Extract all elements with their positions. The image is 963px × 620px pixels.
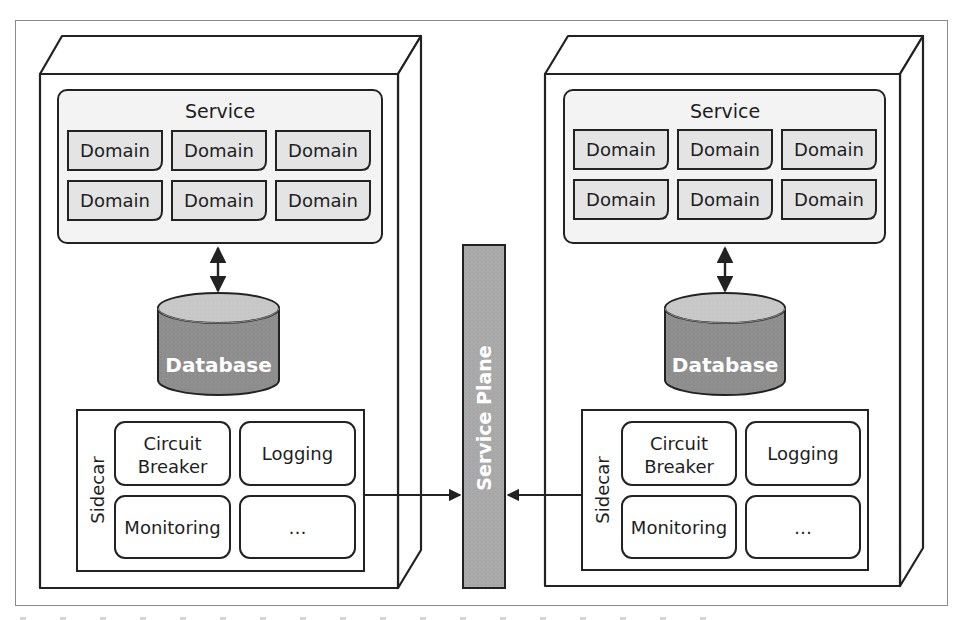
database-label: Database <box>672 353 778 377</box>
service-plane-label: Service Plane <box>473 345 495 490</box>
domain-label: Domain <box>794 189 864 210</box>
sidecar-cell-logging: Logging <box>240 422 355 485</box>
sidecar-cell-more: … <box>746 496 860 558</box>
sidecar-cell-line2: Breaker <box>138 456 208 477</box>
service-plane: Service Plane <box>463 245 505 588</box>
domain-box: Domain <box>678 180 772 219</box>
sidecar-cell-line1: Circuit <box>650 433 708 454</box>
service-title: Service <box>185 100 255 122</box>
node-right: Service Domain Domain Domain Domain Doma… <box>508 36 923 586</box>
sidecar-cell-more: … <box>240 496 355 558</box>
sidecar-cell-line1: … <box>289 517 307 538</box>
domain-box: Domain <box>172 131 266 170</box>
database-right: Database <box>665 293 785 395</box>
domain-box: Domain <box>782 180 876 219</box>
database-label: Database <box>165 353 271 377</box>
sidecar-cell-line1: Monitoring <box>124 517 220 538</box>
domain-box: Domain <box>276 131 370 170</box>
sidecar-cell-monitoring: Monitoring <box>622 496 736 558</box>
sidecar-cell-line1: Logging <box>767 443 838 464</box>
domain-box: Domain <box>782 130 876 169</box>
domain-label: Domain <box>80 140 150 161</box>
sidecar-label: Sidecar <box>87 456 108 524</box>
sidecar-left: Sidecar Circuit Breaker Logging Monitori… <box>77 410 364 571</box>
domain-label: Domain <box>184 190 254 211</box>
sidecar-right: Sidecar Circuit Breaker Logging Monitori… <box>582 410 868 570</box>
domain-label: Domain <box>80 190 150 211</box>
domain-label: Domain <box>690 189 760 210</box>
domain-box: Domain <box>574 130 668 169</box>
sidecar-cell-monitoring: Monitoring <box>115 496 230 558</box>
domain-box: Domain <box>276 181 370 220</box>
service-title: Service <box>690 100 760 122</box>
domain-label: Domain <box>288 140 358 161</box>
sidecar-cell-circuit-breaker: Circuit Breaker <box>115 422 230 485</box>
domain-box: Domain <box>574 180 668 219</box>
domain-box: Domain <box>172 181 266 220</box>
sidecar-label: Sidecar <box>592 456 613 524</box>
sidecar-cell-line1: Monitoring <box>631 517 727 538</box>
clipped-caption <box>20 612 720 620</box>
database-left: Database <box>158 293 279 395</box>
domain-box: Domain <box>68 131 162 170</box>
domain-label: Domain <box>288 190 358 211</box>
sidecar-cell-line1: Circuit <box>144 433 202 454</box>
sidecar-cell-line2: Breaker <box>644 456 714 477</box>
service-container-right: Service Domain Domain Domain Domain Doma… <box>564 90 885 243</box>
domain-box: Domain <box>68 181 162 220</box>
service-container-left: Service Domain Domain Domain Domain Doma… <box>58 90 382 243</box>
domain-label: Domain <box>690 139 760 160</box>
domain-box: Domain <box>678 130 772 169</box>
domain-label: Domain <box>794 139 864 160</box>
diagram-canvas: Service Domain Domain Domain Domain Doma… <box>0 0 963 620</box>
domain-label: Domain <box>586 139 656 160</box>
sidecar-cell-logging: Logging <box>746 422 860 485</box>
sidecar-cell-line1: Logging <box>262 443 333 464</box>
node-left: Service Domain Domain Domain Domain Doma… <box>40 36 460 588</box>
sidecar-cell-line1: … <box>794 517 812 538</box>
sidecar-cell-circuit-breaker: Circuit Breaker <box>622 422 736 485</box>
domain-label: Domain <box>586 189 656 210</box>
domain-label: Domain <box>184 140 254 161</box>
